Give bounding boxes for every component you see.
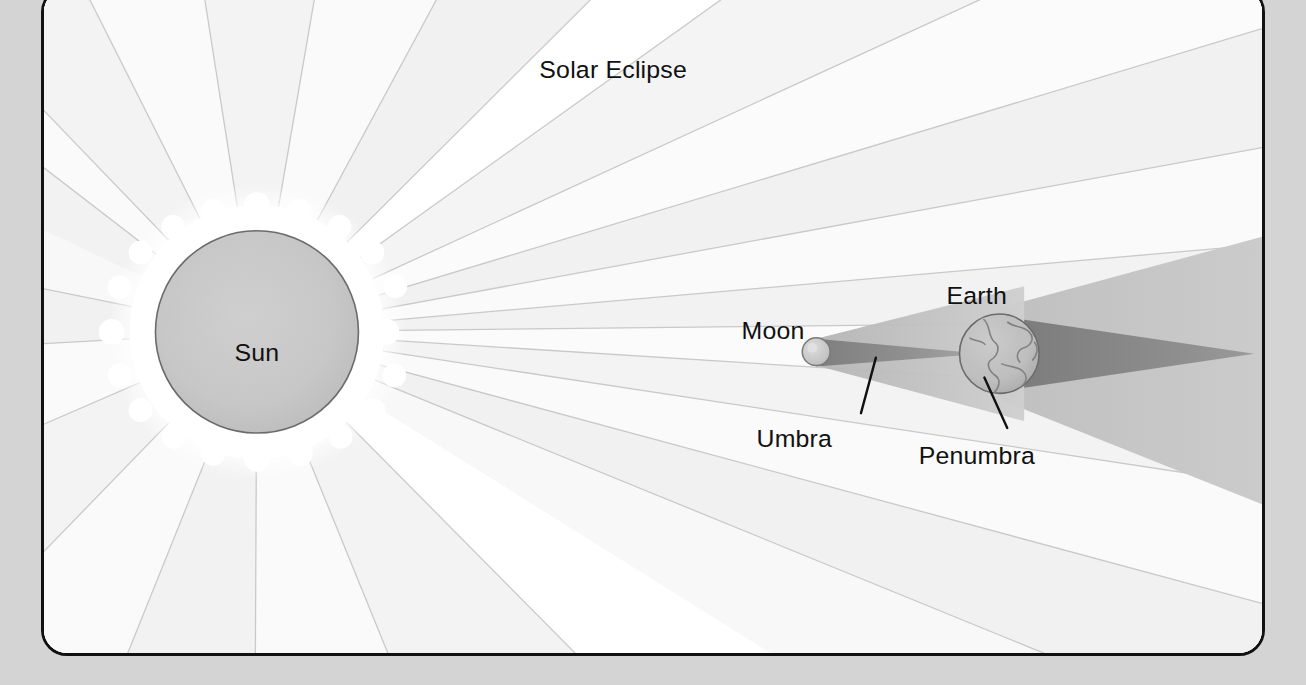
moon-label: Moon xyxy=(742,317,805,344)
sun-label: Sun xyxy=(235,339,280,366)
sun-disk xyxy=(155,231,358,433)
illustration-canvas: Solar Eclipse Sun Moon Earth Umbra Penum… xyxy=(44,0,1262,653)
moon-group xyxy=(802,338,830,366)
moon-disk xyxy=(802,338,830,366)
earth-label: Earth xyxy=(947,282,1007,309)
earth-group xyxy=(959,314,1039,393)
moon-crater xyxy=(807,343,817,353)
earth-shade xyxy=(959,314,1039,393)
figure-title: Solar Eclipse xyxy=(539,56,687,83)
umbra-label: Umbra xyxy=(756,425,832,452)
illustration-panel: Solar Eclipse Sun Moon Earth Umbra Penum… xyxy=(41,0,1265,656)
screenshot-root: Solar Eclipse Sun Moon Earth Umbra Penum… xyxy=(0,0,1306,685)
solar-eclipse-illustration: Solar Eclipse Sun Moon Earth Umbra Penum… xyxy=(44,0,1262,653)
penumbra-label: Penumbra xyxy=(919,442,1035,469)
